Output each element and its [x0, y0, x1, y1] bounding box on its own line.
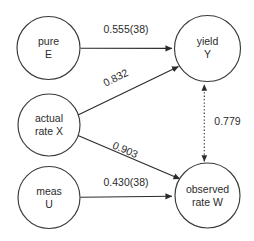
edge-label-pure-e-to-yield-y: 0.555(38)	[104, 23, 149, 35]
edge-label-yield-y-observed-rate-w-correlation: 0.779	[214, 115, 240, 127]
node-label-actual-rate-x-line1: actual	[35, 112, 63, 124]
node-label-yield-y-line2: Y	[204, 48, 211, 60]
edge-yield-y-observed-rate-w-correlation: 0.779	[204, 85, 240, 162]
node-actual-rate-x[interactable]: actual rate X	[18, 94, 80, 156]
node-meas-u[interactable]: meas U	[18, 167, 80, 229]
node-label-pure-e-line1: pure	[38, 35, 59, 47]
node-pure-e[interactable]: pure E	[17, 17, 80, 80]
edge-pure-e-to-yield-y: 0.555(38)	[81, 23, 173, 48]
edge-actual-rate-x-to-observed-rate-w: 0.903	[78, 136, 180, 180]
node-observed-rate-w[interactable]: observed rate W	[175, 163, 240, 228]
edge-line-meas-u-to-observed-rate-w	[81, 196, 173, 197]
path-diagram: 0.555(38) 0.832 0.903 0.430(38) yield Y …	[0, 0, 254, 241]
node-label-observed-rate-w-line2: rate W	[192, 196, 223, 208]
edge-label-meas-u-to-observed-rate-w: 0.430(38)	[104, 176, 149, 188]
node-label-pure-e-line2: E	[45, 48, 52, 60]
node-label-meas-u-line1: meas	[36, 185, 62, 197]
path-diagram-canvas: 0.555(38) 0.832 0.903 0.430(38) yield Y …	[0, 0, 254, 241]
edge-label-actual-rate-x-to-observed-rate-w: 0.903	[111, 139, 140, 160]
edge-meas-u-to-observed-rate-w: 0.430(38)	[81, 176, 173, 197]
node-label-observed-rate-w-line1: observed	[186, 183, 229, 195]
node-label-meas-u-line2: U	[45, 198, 53, 210]
edge-actual-rate-x-to-yield-y: 0.832	[78, 66, 179, 115]
edge-label-actual-rate-x-to-yield-y: 0.832	[101, 66, 130, 88]
node-label-actual-rate-x-line2: rate X	[35, 125, 63, 137]
node-yield-y[interactable]: yield Y	[175, 16, 241, 82]
node-label-yield-y-line1: yield	[197, 35, 219, 47]
